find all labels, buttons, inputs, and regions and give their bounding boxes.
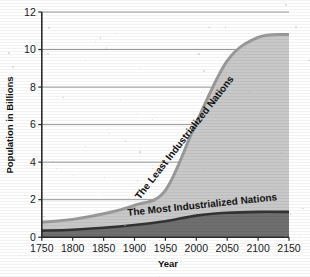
y-tick-labels: 024681012 <box>24 6 36 243</box>
y-tick-label: 8 <box>30 81 36 93</box>
scan-speck <box>308 60 309 61</box>
scan-speck <box>12 66 14 68</box>
scan-speck <box>203 168 205 170</box>
scan-speck <box>8 52 10 54</box>
scan-speck <box>52 161 54 163</box>
scan-speck <box>299 235 300 236</box>
scan-speck <box>120 99 121 100</box>
scan-speck <box>281 186 283 188</box>
scan-speck <box>116 33 117 34</box>
y-tick-label: 6 <box>30 118 36 130</box>
y-tick-label: 4 <box>30 156 36 168</box>
chart-canvas: 024681012 175018001850190019502000205021… <box>0 0 310 277</box>
x-tick-label: 2000 <box>185 242 209 254</box>
scan-speck <box>250 208 251 209</box>
population-area-chart: 024681012 175018001850190019502000205021… <box>0 0 310 277</box>
x-tick-label: 1950 <box>154 242 178 254</box>
scan-speck <box>284 70 285 71</box>
scan-speck <box>285 4 287 6</box>
scan-speck <box>48 27 50 29</box>
y-tick-label: 10 <box>24 43 36 55</box>
x-tick-labels: 175018001850190019502000205021002150 <box>30 242 301 254</box>
x-tick-label: 1900 <box>123 242 147 254</box>
scan-speck <box>143 254 144 255</box>
scan-speck <box>159 240 160 241</box>
scan-speck <box>284 251 285 252</box>
scan-speck <box>198 53 200 55</box>
scan-speck <box>204 159 206 161</box>
x-tick-label: 1850 <box>92 242 116 254</box>
scan-speck <box>203 70 205 72</box>
scan-speck <box>8 82 10 84</box>
scan-speck <box>285 236 286 237</box>
scan-speck <box>139 151 141 153</box>
scan-speck <box>280 152 282 154</box>
y-tick-label: 2 <box>30 193 36 205</box>
x-tick-label: 2100 <box>246 242 270 254</box>
x-tick-label: 2150 <box>277 242 301 254</box>
scan-speck <box>247 126 249 128</box>
scan-speck <box>100 37 101 38</box>
x-axis-title: Year <box>158 258 178 269</box>
scan-speck <box>220 252 221 253</box>
y-tick-label: 12 <box>24 6 36 18</box>
scan-speck <box>56 168 57 169</box>
scan-speck <box>124 225 125 226</box>
scan-speck <box>95 41 96 42</box>
x-tick-label: 1800 <box>61 242 85 254</box>
scan-speck <box>291 230 292 231</box>
x-tick-label: 1750 <box>30 242 54 254</box>
y-axis-title: Population in Billions <box>4 76 15 173</box>
scan-speck <box>290 213 291 214</box>
scan-speck <box>283 1 284 2</box>
scan-speck <box>60 223 62 225</box>
scan-speck <box>225 26 227 28</box>
scan-speck <box>62 97 63 98</box>
y-tick-label: 0 <box>30 231 36 243</box>
